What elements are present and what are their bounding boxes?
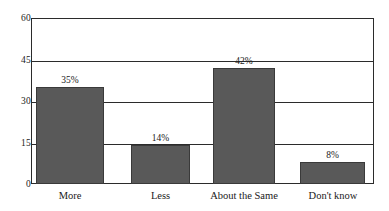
bar-dont-know: [300, 162, 365, 184]
y-tick-label-45: 45: [5, 55, 31, 65]
bar-value-about-the-same: 42%: [213, 56, 275, 67]
y-tick-label-60: 60: [5, 13, 31, 23]
bar-value-more: 35%: [36, 75, 104, 86]
x-axis: More Less About the Same Don't know: [31, 186, 374, 211]
bar-value-dont-know: 8%: [300, 150, 365, 161]
bar-about-the-same: [213, 68, 275, 184]
x-tick-label-less: Less: [123, 189, 198, 202]
bar-less: [131, 145, 190, 184]
bar-series: 35% 14% 42% 8%: [31, 18, 374, 184]
y-tick-label-15: 15: [5, 138, 31, 148]
y-axis: 60 45 30 15 0: [0, 0, 31, 211]
x-tick-label-about-the-same: About the Same: [201, 189, 287, 202]
bar-value-less: 14%: [131, 133, 190, 144]
bar-chart: 60 45 30 15 0 35% 14% 42% 8% More Less A…: [0, 0, 389, 211]
y-tick-label-0: 0: [5, 179, 31, 189]
x-tick-label-dont-know: Don't know: [292, 189, 374, 202]
x-tick-label-more: More: [31, 189, 109, 202]
bar-more: [36, 87, 104, 184]
y-tick-label-30: 30: [5, 96, 31, 106]
